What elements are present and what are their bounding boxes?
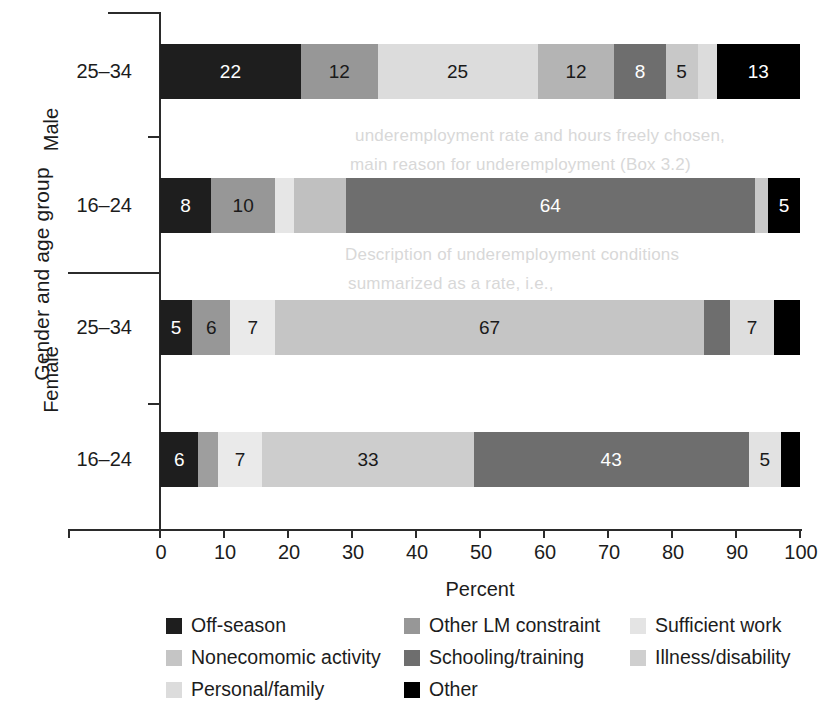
x-axis-tick-label: 30 <box>323 541 383 564</box>
bar-segment-value: 8 <box>635 62 646 81</box>
x-axis-tick <box>415 529 417 538</box>
bar-segment-value: 43 <box>601 450 622 469</box>
bar-segment: 6 <box>160 432 198 487</box>
x-axis-tick-label: 10 <box>195 541 255 564</box>
bar-segment: 10 <box>211 178 275 233</box>
bar-segment: 5 <box>749 432 781 487</box>
bar-segment-value: 33 <box>357 450 378 469</box>
y-axis-category-label-wrap: 16–24 <box>0 432 146 487</box>
stacked-bar-chart: underemployment rate and hours freely ch… <box>0 0 824 706</box>
y-axis-category-label: 16–24 <box>76 448 146 471</box>
x-axis-tick-label: 80 <box>643 541 703 564</box>
x-axis-tick-label: 20 <box>259 541 319 564</box>
bar-segment: 5 <box>160 300 192 355</box>
x-axis-left-cap <box>68 529 70 538</box>
bar-track: 567677 <box>160 300 800 355</box>
y-axis-tick <box>148 136 160 138</box>
x-axis-title: Percent <box>160 578 800 601</box>
x-axis-tick <box>543 529 545 538</box>
x-axis-tick-label: 50 <box>451 541 511 564</box>
bar-segment: 6 <box>192 300 230 355</box>
bar-segment <box>698 44 717 99</box>
x-axis-tick <box>223 529 225 538</box>
x-axis-tick <box>479 529 481 538</box>
bar-track: 810645 <box>160 178 800 233</box>
legend-item[interactable]: Illness/disability <box>630 648 790 668</box>
y-axis-category-label: 25–34 <box>76 316 146 339</box>
x-axis-tick-label: 100 <box>771 541 824 564</box>
bar-segment <box>198 432 217 487</box>
bar-segment-value: 7 <box>235 450 246 469</box>
bar-segment: 7 <box>230 300 275 355</box>
bar-segment-value: 13 <box>748 62 769 81</box>
y-axis-tick <box>148 403 160 405</box>
x-axis-line <box>68 529 802 531</box>
legend-label: Other LM constraint <box>429 616 600 636</box>
bar-segment-value: 6 <box>174 450 185 469</box>
legend-item[interactable]: Off-season <box>166 616 286 636</box>
y-axis-group-divider <box>68 272 160 274</box>
scan-ghost-text: underemployment rate and hours freely ch… <box>355 126 725 146</box>
legend-swatch-icon <box>404 682 420 698</box>
bar-segment-value: 5 <box>759 450 770 469</box>
scan-ghost-text: main reason for underemployment (Box 3.2… <box>350 155 691 175</box>
legend-item[interactable]: Schooling/training <box>404 648 584 668</box>
bar-segment-value: 5 <box>676 62 687 81</box>
bar-segment: 8 <box>160 178 211 233</box>
legend-item[interactable]: Personal/family <box>166 680 324 700</box>
bar-segment <box>275 178 294 233</box>
bar-segment <box>755 178 768 233</box>
bar-segment <box>781 432 800 487</box>
scan-ghost-text: Description of underemployment condition… <box>345 245 679 265</box>
y-axis-category-label-wrap: 25–34 <box>0 300 146 355</box>
bar-segment: 64 <box>346 178 756 233</box>
bar-segment: 12 <box>538 44 615 99</box>
legend-label: Nonecomomic activity <box>191 648 381 668</box>
x-axis-tick <box>351 529 353 538</box>
bar-male-16-24: 810645 <box>160 178 800 233</box>
legend-swatch-icon <box>166 682 182 698</box>
bar-segment-value: 12 <box>329 62 350 81</box>
x-axis-tick-label: 40 <box>387 541 447 564</box>
bar-segment <box>294 178 345 233</box>
bar-segment: 33 <box>262 432 473 487</box>
bar-segment: 12 <box>301 44 378 99</box>
legend-item[interactable]: Sufficient work <box>630 616 781 636</box>
bar-segment: 67 <box>275 300 704 355</box>
y-axis-top-cap <box>108 12 160 14</box>
bar-segment <box>774 300 800 355</box>
legend-swatch-icon <box>630 618 646 634</box>
bar-segment-value: 5 <box>779 196 790 215</box>
bar-segment: 7 <box>730 300 775 355</box>
bar-segment-value: 5 <box>171 318 182 337</box>
legend-label: Personal/family <box>191 680 324 700</box>
x-axis-tick-label: 0 <box>131 541 191 564</box>
legend-swatch-icon <box>166 650 182 666</box>
bar-segment: 22 <box>160 44 301 99</box>
bar-segment-value: 7 <box>248 318 259 337</box>
bar-segment-value: 10 <box>233 196 254 215</box>
bar-segment-value: 25 <box>447 62 468 81</box>
legend-item[interactable]: Other LM constraint <box>404 616 600 636</box>
x-axis-tick <box>607 529 609 538</box>
bar-segment: 5 <box>666 44 698 99</box>
legend-item[interactable]: Other <box>404 680 478 700</box>
x-axis-tick <box>671 529 673 538</box>
bar-segment-value: 67 <box>479 318 500 337</box>
bar-female-25-34: 567677 <box>160 300 800 355</box>
bar-segment: 25 <box>378 44 538 99</box>
x-axis-tick <box>799 529 801 538</box>
bar-segment: 7 <box>218 432 263 487</box>
bar-segment-value: 6 <box>206 318 217 337</box>
legend-item[interactable]: Nonecomomic activity <box>166 648 381 668</box>
bar-segment: 5 <box>768 178 800 233</box>
bar-segment-value: 8 <box>180 196 191 215</box>
bar-track: 6733435 <box>160 432 800 487</box>
legend-label: Other <box>429 680 478 700</box>
y-axis-category-label-wrap: 25–34 <box>0 44 146 99</box>
x-axis-tick-label: 70 <box>579 541 639 564</box>
legend-label: Off-season <box>191 616 286 636</box>
y-axis-category-label-wrap: 16–24 <box>0 178 146 233</box>
bar-male-25-34: 221225128513 <box>160 44 800 99</box>
y-axis-category-label: 16–24 <box>76 194 146 217</box>
